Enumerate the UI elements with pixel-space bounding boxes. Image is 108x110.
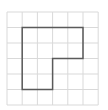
grid-diagram — [0, 0, 108, 110]
